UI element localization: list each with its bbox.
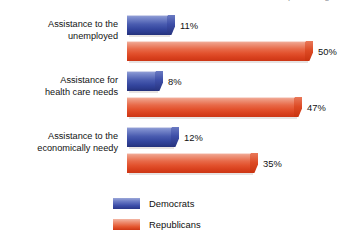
bar-body xyxy=(127,15,168,35)
plot-area: Assistance to the unemployed 11% 50% xyxy=(0,12,349,184)
bar-republicans xyxy=(127,153,258,173)
category-label: Assistance to the economically needy xyxy=(0,130,118,155)
category-label-line-1: Assistance for xyxy=(0,74,118,86)
category-label: Assistance for health care needs xyxy=(0,74,118,99)
bar-shadow xyxy=(129,61,308,63)
category-label-line-1: Assistance to the xyxy=(0,130,118,142)
category-group: Assistance for health care needs 8% 4 xyxy=(0,70,349,122)
bar-pair: 11% 50% xyxy=(127,14,349,66)
bar-shadow xyxy=(129,147,174,149)
bar-highlight xyxy=(127,127,172,128)
legend-swatch-republicans xyxy=(113,219,140,230)
category-label-line-2: economically needy xyxy=(0,142,118,154)
bar-value-democrats: 11% xyxy=(180,20,198,31)
bar-pair: 12% 35% xyxy=(127,126,349,178)
bar-body xyxy=(127,71,156,91)
legend-item-republicans: Republicans xyxy=(113,217,263,234)
bar-value-democrats: 8% xyxy=(168,76,182,87)
bar-body xyxy=(127,41,306,61)
bar-shadow xyxy=(129,91,158,93)
category-group: Assistance to the unemployed 11% 50% xyxy=(0,14,349,66)
chart-legend: Democrats Republicans xyxy=(113,196,263,238)
bar-end-cap xyxy=(250,153,258,173)
bar-value-democrats: 12% xyxy=(184,132,203,143)
category-label: Assistance to the unemployed xyxy=(0,18,118,43)
legend-label-democrats: Democrats xyxy=(149,196,194,211)
bar-body xyxy=(127,153,251,173)
bar-pair: 8% 47% xyxy=(127,70,349,122)
category-label-line-1: Assistance to the xyxy=(0,18,118,30)
category-group: Assistance to the economically needy 12% xyxy=(0,126,349,178)
bar-highlight xyxy=(127,41,306,42)
bar-shadow xyxy=(129,35,170,37)
legend-item-democrats: Democrats xyxy=(113,196,263,213)
category-label-line-2: unemployed xyxy=(0,30,118,42)
legend-swatch-democrats xyxy=(113,198,140,209)
bar-end-cap xyxy=(305,41,313,61)
bar-shadow xyxy=(129,173,253,175)
bar-highlight xyxy=(127,15,168,16)
bar-highlight xyxy=(127,71,156,72)
bar-democrats xyxy=(127,127,179,147)
bar-body xyxy=(127,97,295,117)
bar-republicans xyxy=(127,41,313,61)
bar-democrats xyxy=(127,71,163,91)
bar-body xyxy=(127,127,172,147)
chart-title-cropped: percentage xyxy=(0,0,349,4)
bar-highlight xyxy=(127,97,295,98)
bar-value-republicans: 50% xyxy=(318,46,337,57)
category-label-line-2: health care needs xyxy=(0,86,118,98)
bar-highlight xyxy=(127,153,251,154)
bar-value-republicans: 47% xyxy=(307,102,326,113)
bar-value-republicans: 35% xyxy=(263,158,282,169)
bar-end-cap xyxy=(171,127,179,147)
legend-label-republicans: Republicans xyxy=(149,217,201,232)
chart-title-text: percentage xyxy=(288,0,335,1)
bar-end-cap xyxy=(294,97,302,117)
bar-end-cap xyxy=(155,71,163,91)
bar-shadow xyxy=(129,117,297,119)
bar-democrats xyxy=(127,15,175,35)
bar-chart: percentage Assistance to the unemployed … xyxy=(0,0,349,244)
bar-republicans xyxy=(127,97,302,117)
bar-end-cap xyxy=(167,15,175,35)
